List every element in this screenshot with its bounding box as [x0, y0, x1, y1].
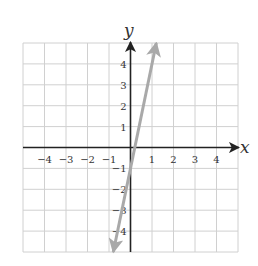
axes — [23, 42, 239, 252]
x-tick-label: −4 — [37, 154, 52, 165]
y-tick-label: 1 — [120, 122, 126, 133]
x-tick-label: −2 — [80, 154, 95, 165]
y-tick-label: 2 — [120, 101, 126, 112]
x-tick-label: 1 — [149, 154, 155, 165]
coordinate-graph: −4−3−2−112344321−1−2−3−4 x y — [0, 0, 258, 266]
y-axis-label: y — [123, 20, 134, 40]
y-tick-label: −1 — [112, 163, 127, 174]
x-tick-label: 3 — [192, 154, 198, 165]
y-tick-label: 4 — [120, 59, 126, 70]
x-tick-label: 4 — [213, 154, 219, 165]
x-axis-label: x — [240, 137, 250, 157]
x-tick-label: 2 — [170, 154, 176, 165]
y-tick-label: −3 — [112, 205, 127, 216]
y-tick-label: 3 — [120, 80, 126, 91]
x-tick-label: −3 — [59, 154, 74, 165]
